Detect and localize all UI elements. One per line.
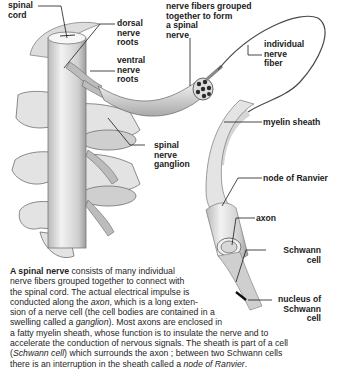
caption-line: nerve fibers grouped together to connect… xyxy=(10,276,328,286)
caption-text: . xyxy=(245,359,247,369)
label-schwann-cell: Schwann cell xyxy=(268,246,321,265)
label-ventral-nerve-roots: ventral nerve roots xyxy=(117,56,145,85)
label-myelin-sheath: myelin sheath xyxy=(263,118,320,128)
label-individual-nerve-fiber: individual nerve fiber xyxy=(264,40,304,69)
caption-line: a fatty myelin sheath, whose function is… xyxy=(10,328,328,338)
caption-term: ganglion xyxy=(76,317,109,327)
caption: A spinal nerve consists of many individu… xyxy=(10,266,328,369)
caption-text: ) which surrounds the axon ; between two… xyxy=(64,348,282,358)
caption-text: conducted along the xyxy=(10,297,91,307)
caption-line: conducted along the axon, which is a lon… xyxy=(10,297,328,307)
caption-text: a fatty myelin sheath, whose function is… xyxy=(10,328,268,338)
caption-line: (Schwann cell) which surrounds the axon … xyxy=(10,348,328,358)
caption-text: there is an interruption in the sheath c… xyxy=(10,359,183,369)
caption-term: axon xyxy=(91,297,110,307)
caption-line: the spinal cord. The actual electrical i… xyxy=(10,287,328,297)
caption-text: nerve fibers grouped together to connect… xyxy=(10,276,184,286)
label-spinal-nerve-ganglion: spinal nerve ganglion xyxy=(154,141,190,170)
caption-line: accelerate the conduction of nervous sig… xyxy=(10,338,328,348)
caption-text: , which is a long exten- xyxy=(110,297,198,307)
label-spinal-cord: spinal cord xyxy=(8,1,33,20)
caption-text: sion of a nerve cell (the cell bodies ar… xyxy=(10,307,215,317)
caption-term: node of Ranvier xyxy=(183,359,244,369)
caption-line: A spinal nerve consists of many individu… xyxy=(10,266,328,276)
caption-line: sion of a nerve cell (the cell bodies ar… xyxy=(10,307,328,317)
caption-lead: A spinal nerve xyxy=(10,266,69,276)
caption-text: accelerate the conduction of nervous sig… xyxy=(10,338,288,348)
caption-text: swelling called a xyxy=(10,317,76,327)
label-node-of-ranvier: node of Ranvier xyxy=(263,174,328,184)
caption-text: consists of many individual xyxy=(69,266,175,276)
caption-line: there is an interruption in the sheath c… xyxy=(10,359,328,369)
caption-text: ). Most axons are enclosed in xyxy=(109,317,222,327)
caption-text: the spinal cord. The actual electrical i… xyxy=(10,287,189,297)
caption-term: Schwann cell xyxy=(13,348,64,358)
label-nerve-fibers-grouped: nerve fibers grouped together to form a … xyxy=(166,2,251,40)
caption-line: swelling called a ganglion). Most axons … xyxy=(10,317,328,327)
label-axon: axon xyxy=(256,214,276,224)
label-dorsal-nerve-roots: dorsal nerve roots xyxy=(117,19,143,48)
